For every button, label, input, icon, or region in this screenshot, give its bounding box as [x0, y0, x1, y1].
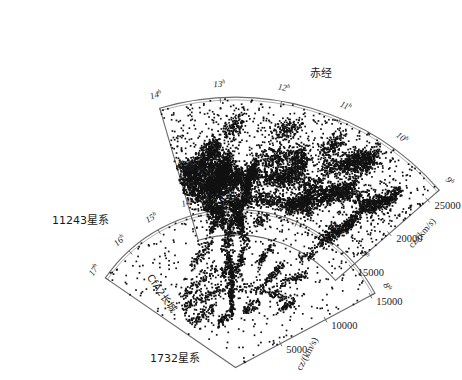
galaxy-point — [276, 302, 278, 304]
galaxy-point — [340, 131, 342, 133]
galaxy-point — [215, 298, 217, 300]
galaxy-point — [264, 169, 266, 171]
galaxy-point — [224, 239, 226, 241]
galaxy-point — [357, 177, 359, 179]
galaxy-point — [181, 305, 183, 307]
galaxy-point — [209, 154, 211, 156]
galaxy-point — [288, 141, 290, 143]
galaxy-point — [163, 234, 165, 236]
galaxy-point — [212, 134, 214, 136]
galaxy-point — [342, 191, 344, 193]
galaxy-point — [201, 191, 203, 193]
galaxy-point — [206, 235, 208, 237]
galaxy-point — [301, 159, 303, 161]
galaxy-point — [372, 155, 374, 157]
galaxy-point — [210, 242, 212, 244]
galaxy-point — [220, 144, 222, 146]
galaxy-point — [311, 306, 313, 308]
galaxy-point — [224, 268, 226, 270]
galaxy-point — [342, 144, 344, 146]
galaxy-point — [239, 132, 241, 134]
galaxy-point — [216, 121, 218, 123]
galaxy-point — [227, 331, 229, 333]
galaxy-point — [225, 246, 227, 248]
galaxy-point — [256, 230, 258, 232]
galaxy-point — [363, 199, 365, 201]
galaxy-point — [333, 167, 335, 169]
galaxy-point — [193, 298, 195, 300]
galaxy-point — [267, 206, 269, 208]
galaxy-point — [248, 170, 250, 172]
galaxy-point — [247, 132, 249, 134]
galaxy-point — [282, 128, 284, 130]
galaxy-point — [227, 242, 229, 244]
galaxy-point — [274, 273, 276, 275]
galaxy-point — [293, 183, 295, 185]
galaxy-point — [269, 291, 271, 293]
galaxy-point — [186, 302, 188, 304]
galaxy-point — [259, 172, 261, 174]
galaxy-point — [197, 194, 199, 196]
galaxy-point — [241, 252, 243, 254]
galaxy-point — [337, 173, 339, 175]
galaxy-point — [241, 180, 243, 182]
galaxy-point — [173, 114, 175, 116]
galaxy-point — [375, 189, 377, 191]
galaxy-point — [385, 189, 387, 191]
galaxy-point — [335, 165, 337, 167]
galaxy-point — [403, 219, 405, 221]
galaxy-point — [202, 226, 204, 228]
galaxy-point — [204, 275, 206, 277]
galaxy-point — [257, 308, 259, 310]
galaxy-point — [209, 139, 211, 141]
galaxy-point — [326, 304, 328, 306]
galaxy-point — [280, 158, 282, 160]
galaxy-point — [370, 148, 372, 150]
galaxy-point — [336, 198, 338, 200]
galaxy-point — [223, 275, 225, 277]
galaxy-point — [261, 176, 263, 178]
galaxy-point — [157, 308, 159, 310]
galaxy-point — [354, 190, 356, 192]
galaxy-point — [276, 261, 278, 263]
galaxy-point — [356, 175, 358, 177]
galaxy-point — [326, 168, 328, 170]
galaxy-point — [295, 133, 297, 135]
galaxy-point — [229, 221, 231, 223]
galaxy-point — [332, 237, 334, 239]
galaxy-point — [192, 195, 194, 197]
galaxy-point — [235, 165, 237, 167]
galaxy-point — [289, 306, 291, 308]
galaxy-point — [379, 183, 381, 185]
galaxy-point — [374, 191, 376, 193]
galaxy-point — [353, 169, 355, 171]
galaxy-point — [322, 182, 324, 184]
galaxy-point — [224, 261, 226, 263]
galaxy-point — [293, 154, 295, 156]
galaxy-point — [346, 182, 348, 184]
galaxy-point — [333, 197, 335, 199]
galaxy-point — [193, 181, 195, 183]
galaxy-point — [282, 298, 284, 300]
galaxy-point — [368, 204, 370, 206]
galaxy-point — [259, 274, 261, 276]
galaxy-point — [240, 244, 242, 246]
galaxy-point — [337, 181, 339, 183]
galaxy-point — [181, 287, 183, 289]
galaxy-point — [358, 213, 360, 215]
galaxy-point — [348, 164, 350, 166]
galaxy-point — [279, 299, 281, 301]
galaxy-point — [252, 163, 254, 165]
galaxy-point — [179, 292, 181, 294]
galaxy-point — [330, 145, 332, 147]
galaxy-point — [282, 309, 284, 311]
galaxy-point — [200, 188, 202, 190]
galaxy-point — [300, 154, 302, 156]
galaxy-point — [287, 201, 289, 203]
galaxy-point — [281, 299, 283, 301]
galaxy-point — [298, 120, 300, 122]
galaxy-point — [351, 128, 353, 130]
galaxy-point — [308, 159, 310, 161]
galaxy-point — [301, 146, 303, 148]
galaxy-point — [288, 297, 290, 299]
